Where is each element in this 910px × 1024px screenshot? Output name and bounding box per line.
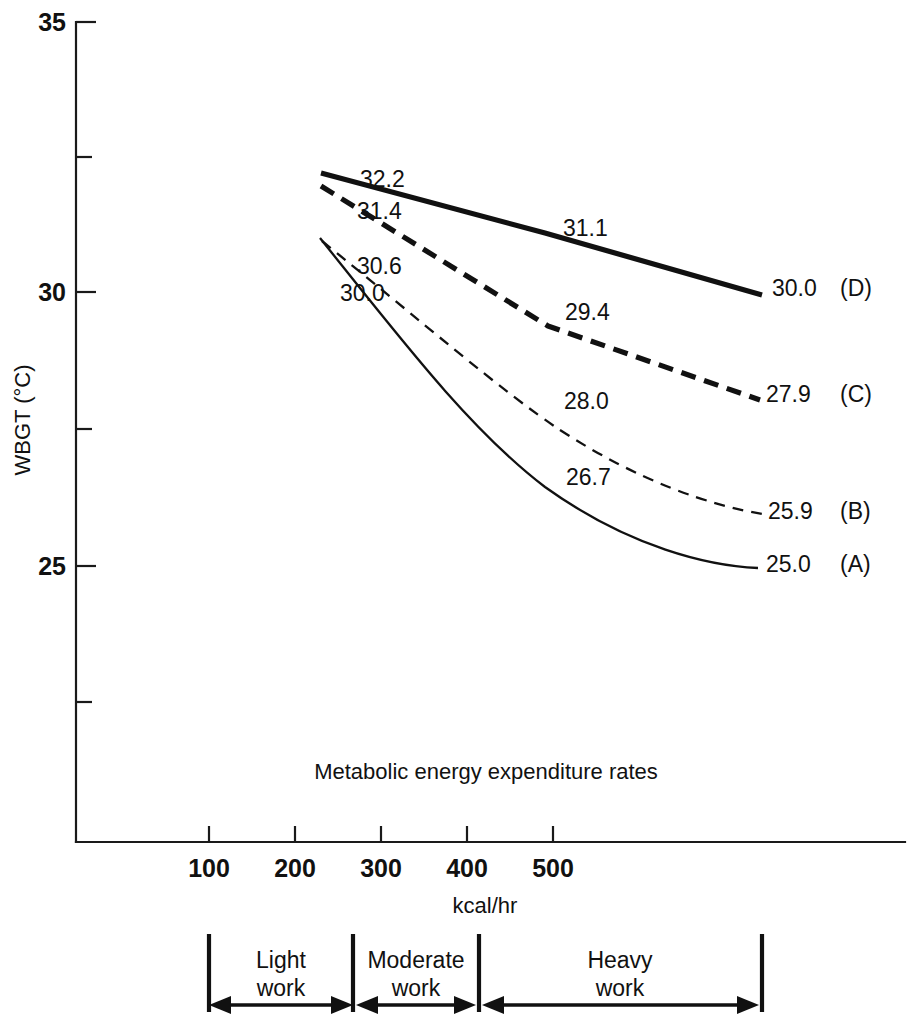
- series-b-curve: [322, 241, 762, 514]
- series-c-mid-value: 29.4: [565, 299, 610, 325]
- series-d-mid-value: 31.1: [563, 215, 608, 241]
- y-tick-label-25: 25: [38, 552, 66, 580]
- band-label-light-line2: work: [256, 975, 306, 1001]
- chart-figure: 35 30 25 WBGT (°C) 100 200 300 400 500 k…: [0, 0, 910, 1024]
- series-label-c: (C): [840, 381, 872, 407]
- band-label-moderate-line1: Moderate: [367, 947, 464, 973]
- series-d-end-value: 30.0: [772, 275, 817, 301]
- x-axis-title: kcal/hr: [453, 893, 518, 918]
- chart-canvas: 35 30 25 WBGT (°C) 100 200 300 400 500 k…: [0, 0, 910, 1024]
- x-tick-label-100: 100: [188, 854, 230, 882]
- series-c-end-value: 27.9: [766, 381, 811, 407]
- series-a-mid-value: 26.7: [566, 464, 611, 490]
- x-tick-label-300: 300: [360, 854, 402, 882]
- band-label-light-line1: Light: [256, 947, 306, 973]
- axes-group: [76, 22, 905, 842]
- series-b-mid-value: 28.0: [564, 388, 609, 414]
- series-label-d: (D): [840, 275, 872, 301]
- series-d-start-value: 32.2: [360, 166, 405, 192]
- y-axis-title: WBGT (°C): [10, 364, 35, 475]
- work-bands-group: Light work Moderate work Heavy work: [209, 934, 762, 1014]
- x-tick-label-400: 400: [446, 854, 488, 882]
- y-tick-label-35: 35: [38, 8, 66, 36]
- series-b-start-value: 30.6: [357, 253, 402, 279]
- band-label-heavy-line1: Heavy: [587, 947, 653, 973]
- x-tick-label-200: 200: [274, 854, 316, 882]
- series-label-b: (B): [840, 498, 871, 524]
- x-tick-group: [209, 826, 553, 842]
- band-label-moderate-line2: work: [391, 975, 441, 1001]
- series-a-end-value: 25.0: [766, 551, 811, 577]
- series-label-a: (A): [840, 551, 871, 577]
- series-b-end-value: 25.9: [768, 498, 813, 524]
- metabolic-caption: Metabolic energy expenditure rates: [314, 759, 658, 784]
- series-a-curve: [320, 238, 758, 568]
- y-tick-group: [76, 22, 96, 702]
- band-label-heavy-line2: work: [595, 975, 645, 1001]
- y-tick-label-30: 30: [38, 278, 66, 306]
- x-tick-label-500: 500: [532, 854, 574, 882]
- series-a-start-value: 30.0: [340, 280, 385, 306]
- series-c-start-value: 31.4: [357, 198, 402, 224]
